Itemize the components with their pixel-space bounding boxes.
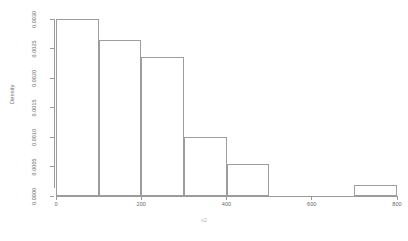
y-tick-6 xyxy=(50,19,54,20)
y-tick-4 xyxy=(50,78,54,79)
histogram-bar-4 xyxy=(227,164,270,196)
y-tick-3 xyxy=(50,107,54,108)
y-tick-2 xyxy=(50,137,54,138)
x-axis-title: x2 xyxy=(201,217,207,223)
y-tick-label-0: 0.0000 xyxy=(31,188,37,205)
y-tick-label-6: 0.0030 xyxy=(31,11,37,28)
x-tick-2 xyxy=(226,196,227,200)
x-tick-label-4: 800 xyxy=(392,201,402,207)
y-axis-title: Density xyxy=(9,85,15,104)
y-tick-label-4: 0.0020 xyxy=(31,70,37,87)
y-axis-line xyxy=(54,19,55,188)
y-tick-label-2: 0.0010 xyxy=(31,129,37,146)
histogram-plot: Density x2 0.00000.00050.00100.00150.002… xyxy=(0,0,408,241)
x-tick-label-3: 600 xyxy=(307,201,317,207)
x-tick-label-0: 0 xyxy=(54,201,57,207)
y-tick-0 xyxy=(50,196,54,197)
x-tick-label-1: 200 xyxy=(136,201,146,207)
histogram-bar-1 xyxy=(99,40,142,196)
y-tick-label-3: 0.0015 xyxy=(31,99,37,116)
x-tick-4 xyxy=(397,196,398,200)
x-tick-0 xyxy=(56,196,57,200)
histogram-bar-2 xyxy=(141,57,184,196)
x-tick-3 xyxy=(311,196,312,200)
x-tick-1 xyxy=(141,196,142,200)
y-tick-1 xyxy=(50,166,54,167)
histogram-bar-7 xyxy=(354,185,397,196)
y-tick-5 xyxy=(50,48,54,49)
y-tick-label-1: 0.0005 xyxy=(31,158,37,175)
histogram-bar-3 xyxy=(184,137,227,196)
x-tick-label-2: 400 xyxy=(222,201,232,207)
y-tick-label-5: 0.0025 xyxy=(31,40,37,57)
histogram-bar-0 xyxy=(56,19,99,196)
